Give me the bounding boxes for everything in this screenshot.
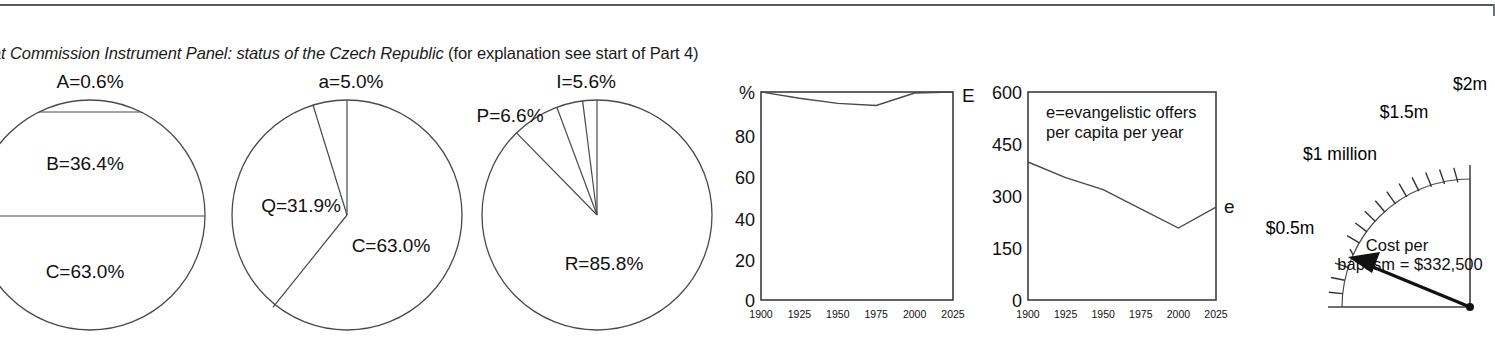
line-e-series-label: e [1224,196,1235,217]
line-chart-E: % 80 60 40 20 0 E 1900 1925 1950 1975 20… [716,70,988,335]
line-e-xtick-1900: 1900 [1016,308,1040,320]
line-e-xtick-1950: 1950 [1092,308,1116,320]
gauge-tick-label-two: $2m [1453,74,1487,94]
pie-abc-label-c: C=63.0% [46,261,125,282]
line-e-xtick-2000: 2000 [1167,308,1191,320]
pie-ipr-label-i: I=5.6% [556,71,616,92]
gauge-readout-line2: baptism = $332,500 [1337,255,1482,273]
gauge-tick-label-one: $1 million [1303,144,1377,164]
pie-abc-label-a: A=0.6% [56,71,123,92]
line-e-note-line2: per capita per year [1046,123,1184,141]
line-e-note-line1: e=evangelistic offers [1046,103,1197,121]
gauge-cost-per-baptism: $0.5m $1 million $1.5m $2m Cost per bapt… [1252,70,1495,335]
gauge-readout-line1: Cost per [1366,236,1429,254]
line-e-ytick-600: 600 [992,83,1022,103]
pie-acq-label-a: a=5.0% [319,71,384,92]
pie-abc-label-b: B=36.4% [46,153,124,174]
pie-ipr-label-r: R=85.8% [565,253,644,274]
line-E-plot-frame [761,92,953,300]
pie-ipr-label-p: P=6.6% [476,105,543,126]
line-E-ylabel-unit: % [739,83,755,103]
line-E-ytick-60: 60 [735,168,755,188]
line-E-series-label: E [962,85,975,106]
instrument-panel: at Commission Instrument Panel: status o… [0,0,1495,350]
top-divider-rule [0,4,1495,6]
line-E-ytick-40: 40 [735,210,755,230]
line-e-xtick-2025: 2025 [1204,308,1228,320]
pie-chart-abc: A=0.6% B=36.4% C=63.0% [0,70,245,335]
line-e-ytick-450: 450 [992,135,1022,155]
line-E-ytick-20: 20 [735,251,755,271]
line-E-xtick-1975: 1975 [865,308,889,320]
gauge-tick-label-half: $0.5m [1266,218,1315,238]
line-E-ytick-80: 80 [735,127,755,147]
line-E-xtick-1925: 1925 [788,308,812,320]
line-chart-e: 600 450 300 150 0 e=evangelistic offers … [988,70,1268,335]
pie-acq-label-c: C=63.0% [352,235,431,256]
line-e-ytick-150: 150 [992,239,1022,259]
pie-abc-outline [0,100,205,330]
page-title-roman: (for explanation see start of Part 4) [444,44,699,62]
line-e-series [1028,162,1216,228]
page-title-italic: at Commission Instrument Panel: status o… [0,44,444,62]
line-E-xtick-2000: 2000 [903,308,927,320]
line-e-xtick-1925: 1925 [1054,308,1078,320]
line-E-xtick-1900: 1900 [749,308,773,320]
line-e-xtick-1975: 1975 [1129,308,1153,320]
gauge-tick-label-one-half: $1.5m [1380,102,1429,122]
line-e-ytick-300: 300 [992,187,1022,207]
line-E-xtick-2025: 2025 [941,308,965,320]
line-E-series [761,92,953,106]
page-title: at Commission Instrument Panel: status o… [0,43,1092,63]
line-E-xtick-1950: 1950 [826,308,850,320]
pie-chart-ipr: I=5.6% P=6.6% R=85.8% [452,70,742,335]
pie-acq-label-q: Q=31.9% [261,195,341,216]
